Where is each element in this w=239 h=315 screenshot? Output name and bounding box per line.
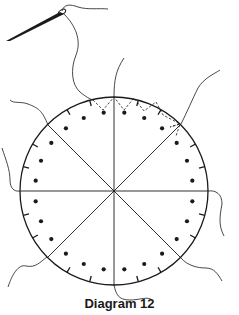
needle-icon [6,8,67,41]
thread [64,14,93,100]
thread [62,5,108,11]
stitch-diagram [0,0,239,315]
dashed-stitch-path [93,97,180,136]
diagram-caption: Diagram 12 [0,296,239,311]
